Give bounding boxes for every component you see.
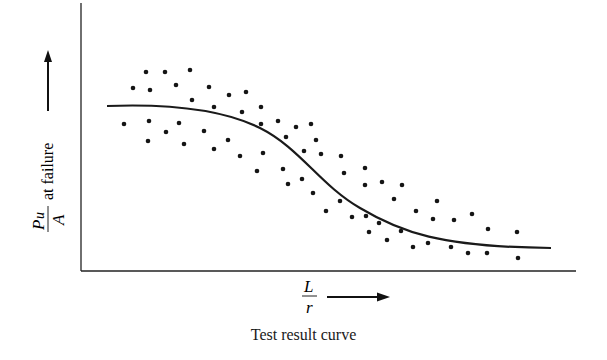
data-point xyxy=(449,245,454,250)
data-point xyxy=(324,209,329,214)
data-point xyxy=(339,154,344,159)
x-label-numerator: L xyxy=(303,277,313,296)
data-point xyxy=(177,121,182,126)
data-point xyxy=(146,139,151,144)
data-point xyxy=(240,110,245,115)
data-point xyxy=(426,241,431,246)
data-point xyxy=(385,238,390,243)
data-point xyxy=(147,119,152,124)
data-point xyxy=(350,215,355,220)
data-point xyxy=(314,138,319,143)
y-axis-label: P u A at failure xyxy=(29,50,68,232)
data-point xyxy=(338,199,343,204)
data-point xyxy=(227,93,232,98)
data-point xyxy=(470,212,475,217)
y-label-subscript: u xyxy=(32,212,47,219)
data-point xyxy=(174,83,179,88)
data-point xyxy=(276,119,281,124)
data-point xyxy=(414,209,419,214)
data-point xyxy=(342,171,347,176)
data-point xyxy=(431,217,436,222)
x-arrow-icon xyxy=(377,293,390,302)
data-point xyxy=(466,251,471,256)
data-point xyxy=(212,147,217,152)
data-point xyxy=(238,154,243,159)
figure-caption: Test result curve xyxy=(0,326,607,344)
data-point xyxy=(244,90,249,95)
data-point xyxy=(311,191,316,196)
y-label-denominator: A xyxy=(49,214,68,226)
data-point xyxy=(486,227,491,232)
data-point xyxy=(163,70,168,75)
y-label-numerator: P xyxy=(29,220,48,231)
data-point xyxy=(377,221,382,226)
data-point xyxy=(319,152,324,157)
data-point xyxy=(182,142,187,147)
data-point xyxy=(400,183,405,188)
data-point xyxy=(255,169,260,174)
data-point xyxy=(309,122,314,127)
y-arrow-icon xyxy=(44,50,52,62)
data-point xyxy=(286,182,291,187)
data-point xyxy=(164,130,169,135)
data-point xyxy=(435,199,440,204)
data-point xyxy=(367,230,372,235)
data-point xyxy=(190,98,195,103)
data-point xyxy=(284,135,289,140)
data-point xyxy=(302,149,307,154)
data-point xyxy=(202,129,207,134)
data-point xyxy=(363,183,368,188)
x-label-denominator: r xyxy=(306,298,313,317)
data-point xyxy=(485,251,490,256)
data-point xyxy=(411,245,416,250)
data-point xyxy=(212,105,217,110)
data-point xyxy=(259,122,264,127)
data-point xyxy=(452,218,457,223)
chart: P u A at failure L r xyxy=(0,0,607,360)
data-point xyxy=(399,229,404,234)
data-point xyxy=(380,180,385,185)
y-label-suffix: at failure xyxy=(39,143,56,200)
data-point xyxy=(392,197,397,202)
data-point xyxy=(261,151,266,156)
data-point xyxy=(144,70,149,75)
data-point xyxy=(294,125,299,130)
test-result-curve xyxy=(107,106,551,248)
data-point xyxy=(148,88,153,93)
data-point xyxy=(300,177,305,182)
x-axis-label: L r xyxy=(302,277,390,317)
data-point xyxy=(226,138,231,143)
data-point xyxy=(281,167,286,172)
data-point xyxy=(364,214,369,219)
scatter-points xyxy=(122,68,521,261)
data-point xyxy=(516,256,521,261)
data-point xyxy=(259,105,264,110)
data-point xyxy=(363,166,368,171)
data-point xyxy=(131,86,136,91)
data-point xyxy=(188,68,193,73)
data-point xyxy=(122,122,127,127)
data-point xyxy=(207,85,212,90)
data-point xyxy=(515,230,520,235)
